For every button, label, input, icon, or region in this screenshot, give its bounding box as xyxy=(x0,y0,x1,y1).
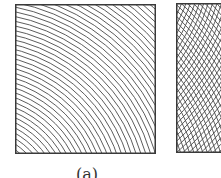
moire-crosshatch-pattern xyxy=(176,3,221,153)
panel-a-caption: (a) xyxy=(76,165,98,178)
panel-a xyxy=(15,4,156,154)
panel-b xyxy=(176,3,221,153)
concentric-arcs-pattern xyxy=(15,4,156,154)
